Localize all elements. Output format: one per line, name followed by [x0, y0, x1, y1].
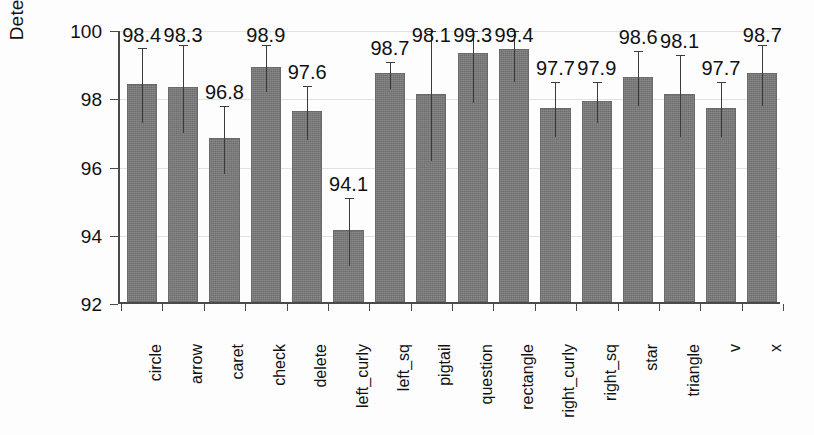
x-category-label: right_sq [603, 344, 619, 401]
y-tick-label: 98 [81, 90, 102, 109]
plot-area: 92949698100 98.498.396.898.997.694.198.7… [118, 31, 780, 304]
x-tick [287, 304, 288, 311]
y-tick: 96 [110, 168, 118, 169]
bar-value-label: 98.9 [246, 25, 285, 45]
x-category-label: check [272, 344, 288, 386]
y-tick-label: 94 [81, 226, 102, 245]
y-tick-label: 96 [81, 158, 102, 177]
bar [747, 73, 777, 302]
x-category-label: left_sq [396, 344, 412, 391]
error-bar [266, 45, 267, 93]
bar-value-label: 97.7 [701, 58, 740, 78]
x-tick [535, 304, 536, 311]
error-bar [431, 31, 432, 161]
error-bar-cap [634, 51, 643, 52]
y-axis-title: Detection rate [%] [6, 0, 32, 78]
bar-value-label: 97.6 [288, 62, 327, 82]
x-category-label: x [768, 344, 784, 352]
error-bar [555, 82, 556, 137]
y-tick: 100 [110, 31, 118, 32]
bar-value-label: 96.8 [205, 82, 244, 102]
x-category-label: delete [313, 344, 329, 388]
x-category-label: right_curly [561, 344, 577, 418]
bar-value-label: 98.7 [370, 38, 409, 58]
x-tick [452, 304, 453, 311]
bar-value-label: 98.4 [122, 25, 161, 45]
error-bar [638, 51, 639, 106]
bar-value-label: 97.7 [536, 58, 575, 78]
x-tick [576, 304, 577, 311]
chart-figure: Detection rate [%] 92949698100 98.498.39… [0, 0, 814, 435]
x-category-label: left_curly [355, 344, 371, 408]
error-bar-cap [303, 86, 312, 87]
x-tick [369, 304, 370, 311]
x-tick [121, 304, 122, 311]
x-category-label: caret [230, 344, 246, 380]
x-category-label: triangle [686, 344, 702, 396]
y-tick: 92 [110, 304, 118, 305]
error-bar-cap [138, 48, 147, 49]
x-tick [493, 304, 494, 311]
bar [499, 49, 529, 302]
y-tick-label: 100 [70, 22, 102, 41]
error-bar [224, 106, 225, 174]
x-axis-line [118, 302, 780, 304]
error-bar [307, 86, 308, 141]
bar-value-label: 99.3 [453, 25, 492, 45]
bar-value-label: 98.3 [164, 25, 203, 45]
bar-value-label: 98.1 [412, 25, 451, 45]
x-tick [742, 304, 743, 311]
error-bar [721, 82, 722, 137]
error-bar-cap [551, 82, 560, 83]
error-bar-cap [593, 82, 602, 83]
bar [623, 77, 653, 302]
bar [582, 101, 612, 302]
error-bar [349, 198, 350, 266]
x-category-label: rectangle [520, 344, 536, 410]
x-category-label: question [479, 344, 495, 405]
x-tick [700, 304, 701, 311]
x-tick [411, 304, 412, 311]
x-tick [783, 304, 784, 311]
error-bar [680, 55, 681, 137]
error-bar-cap [717, 82, 726, 83]
error-bar-cap [386, 62, 395, 63]
error-bar-cap [676, 55, 685, 56]
x-tick [328, 304, 329, 311]
x-category-label: star [644, 344, 660, 371]
error-bar-cap [220, 106, 229, 107]
x-category-label: circle [148, 344, 164, 381]
y-tick-label: 92 [81, 295, 102, 314]
x-tick [618, 304, 619, 311]
error-bar [142, 48, 143, 123]
y-tick: 94 [110, 236, 118, 237]
error-bar [390, 62, 391, 89]
bar-value-label: 98.7 [743, 25, 782, 45]
x-tick [204, 304, 205, 311]
error-bar [597, 82, 598, 123]
x-category-label: arrow [189, 344, 205, 384]
y-tick: 98 [110, 99, 118, 100]
x-tick [659, 304, 660, 311]
x-category-label: v [727, 344, 743, 352]
bar [375, 73, 405, 302]
x-tick [245, 304, 246, 311]
error-bar [183, 45, 184, 134]
x-tick [162, 304, 163, 311]
bar-value-label: 98.1 [660, 31, 699, 51]
bar-value-label: 94.1 [329, 174, 368, 194]
error-bar-cap [345, 198, 354, 199]
error-bar [762, 45, 763, 106]
bar [251, 67, 281, 302]
bar-value-label: 98.6 [619, 27, 658, 47]
x-category-label: pigtail [437, 344, 453, 386]
bar-value-label: 99.4 [495, 25, 534, 45]
bar-value-label: 97.9 [577, 58, 616, 78]
